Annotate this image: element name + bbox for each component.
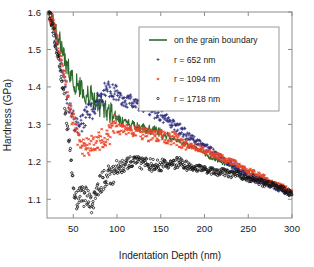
y-tick-label: 1.4 xyxy=(28,81,41,92)
chart-legend: on the grain boundaryr = 652 nmr = 1094 … xyxy=(139,27,279,111)
legend-label: r = 652 nm xyxy=(174,55,215,65)
chart-figure: 501001502002503001.11.21.31.41.51.6 Inde… xyxy=(0,0,314,267)
legend-label: r = 1718 nm xyxy=(174,94,220,104)
x-tick-label: 250 xyxy=(240,223,256,234)
y-tick-label: 1.3 xyxy=(28,119,41,130)
hardness-vs-depth-chart: 501001502002503001.11.21.31.41.51.6 Inde… xyxy=(0,0,314,267)
legend-label: on the grain boundary xyxy=(174,35,258,45)
x-tick-label: 150 xyxy=(153,223,169,234)
y-tick-label: 1.5 xyxy=(28,44,41,55)
x-tick-label: 100 xyxy=(109,223,125,234)
x-tick-label: 50 xyxy=(68,223,79,234)
y-tick-label: 1.6 xyxy=(28,7,41,18)
legend-label: r = 1094 nm xyxy=(174,74,220,84)
y-tick-label: 1.2 xyxy=(28,156,41,167)
x-tick-label: 200 xyxy=(197,223,213,234)
y-axis-label: Hardness (GPa) xyxy=(2,79,13,151)
x-tick-label: 300 xyxy=(284,223,300,234)
x-axis-label: Indentation Depth (nm) xyxy=(119,250,221,261)
y-tick-label: 1.1 xyxy=(28,194,41,205)
